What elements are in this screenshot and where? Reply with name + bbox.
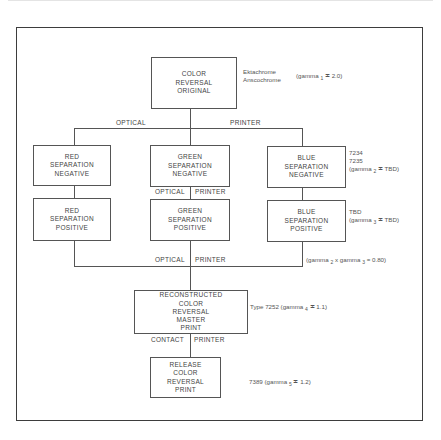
box-text-line: GREEN xyxy=(178,153,203,162)
box-text-line: REVERSAL xyxy=(175,79,212,88)
note-line: Anscochrome xyxy=(243,76,281,84)
gamma-subscript: 3 xyxy=(362,259,365,265)
gamma-subscript: 2 xyxy=(330,259,333,265)
connector-master-to-release xyxy=(190,333,191,357)
gamma-label: x gamma xyxy=(335,256,360,263)
box-green-separation-negative: GREEN SEPARATION NEGATIVE xyxy=(150,145,230,187)
box-text-line: RELEASE xyxy=(169,361,201,370)
box-text-line: PRINT xyxy=(175,386,196,395)
connector-to-red-neg xyxy=(74,128,75,145)
gamma-value: ≐ 1.2) xyxy=(293,378,310,385)
box-text-line: SEPARATION xyxy=(168,162,212,171)
gamma-label: (gamma xyxy=(349,165,372,172)
box-text-line: NEGATIVE xyxy=(173,170,208,179)
box-text-line: SEPARATION xyxy=(50,215,94,224)
note-original-films: Ektachrome Anscochrome xyxy=(243,68,281,84)
gamma-label: 7389 (gamma xyxy=(249,378,287,385)
connector-red-pos-down xyxy=(74,240,75,266)
note-negative-films: 7234 7235 (gamma 2 ≐ TBD) xyxy=(349,149,399,175)
label-printer-2: PRINTER xyxy=(195,188,226,196)
note-line: TBD xyxy=(349,208,399,216)
gamma-label: Type 7252 (gamma xyxy=(250,303,303,310)
box-text-line: MASTER xyxy=(177,316,206,324)
note-release-film: 7389 (gamma 5 ≐ 1.2) xyxy=(249,378,311,388)
gamma-value: ≐ TBD) xyxy=(378,165,399,172)
gamma-subscript: 3 xyxy=(373,219,376,225)
gamma-value: ≐ TBD) xyxy=(378,216,399,223)
box-text-line: RECONSTRUCTED xyxy=(160,291,223,299)
connector-green-pos-to-master xyxy=(190,240,191,290)
box-text-line: POSITIVE xyxy=(56,224,88,233)
gamma-value: ≐ 1.1) xyxy=(310,303,327,310)
connector-blue-pos-down xyxy=(302,241,303,266)
gamma-label: (gamma xyxy=(296,72,319,79)
connector-split-top xyxy=(74,128,303,129)
label-printer-1: PRINTER xyxy=(230,119,261,127)
connector-red-neg-pos xyxy=(74,185,75,198)
box-text-line: ORIGINAL xyxy=(177,87,210,96)
box-text-line: COLOR xyxy=(173,369,198,378)
box-text-line: NEGATIVE xyxy=(55,170,90,179)
box-red-separation-positive: RED SEPARATION POSITIVE xyxy=(33,198,111,241)
note-line: (gamma 3 ≐ TBD) xyxy=(349,216,399,226)
note-line: 7235 xyxy=(349,157,399,165)
note-positive-film: TBD (gamma 3 ≐ TBD) xyxy=(349,208,399,226)
box-text-line: PRINT xyxy=(181,324,202,332)
connector-merge-bottom xyxy=(74,266,303,267)
box-reconstructed-master-print: RECONSTRUCTED COLOR REVERSAL MASTER PRIN… xyxy=(134,290,248,334)
top-rule xyxy=(8,0,433,1)
box-text-line: REVERSAL xyxy=(167,378,204,387)
gamma-value: ≐ 2.0) xyxy=(325,72,342,79)
box-blue-separation-negative: BLUE SEPARATION NEGATIVE xyxy=(267,146,346,188)
box-text-line: BLUE xyxy=(297,154,315,163)
box-green-separation-positive: GREEN SEPARATION POSITIVE xyxy=(150,199,230,241)
gamma-subscript: 2 xyxy=(373,168,376,174)
gamma-subscript: 4 xyxy=(305,306,308,312)
box-text-line: NEGATIVE xyxy=(289,171,324,180)
box-text-line: GREEN xyxy=(178,207,203,216)
box-text-line: REVERSAL xyxy=(172,308,209,316)
box-text-line: BLUE xyxy=(297,208,315,217)
box-text-line: POSITIVE xyxy=(174,224,206,233)
label-optical-2: OPTICAL xyxy=(155,188,185,196)
label-contact: CONTACT xyxy=(151,336,184,344)
box-text-line: SEPARATION xyxy=(50,161,94,170)
box-blue-separation-positive: BLUE SEPARATION POSITIVE xyxy=(267,200,346,242)
label-optical-1: OPTICAL xyxy=(116,119,146,127)
box-text-line: COLOR xyxy=(179,300,204,308)
box-red-separation-negative: RED SEPARATION NEGATIVE xyxy=(33,145,111,186)
box-text-line: SEPARATION xyxy=(285,217,329,226)
gamma-label: (gamma xyxy=(349,216,372,223)
note-line: (gamma 2 ≐ TBD) xyxy=(349,165,399,175)
box-color-reversal-original: COLOR REVERSAL ORIGINAL xyxy=(151,57,237,109)
connector-to-blue-neg xyxy=(302,128,303,146)
box-text-line: RED xyxy=(65,207,80,216)
note-product-gamma: (gamma 2 x gamma 3 = 0.80) xyxy=(306,256,386,266)
note-line: Ektachrome xyxy=(243,68,281,76)
gamma-subscript: 1 xyxy=(320,75,323,81)
box-text-line: POSITIVE xyxy=(290,225,322,234)
connector-blue-neg-pos xyxy=(302,187,303,200)
box-text-line: SEPARATION xyxy=(168,216,212,225)
box-release-color-reversal-print: RELEASE COLOR REVERSAL PRINT xyxy=(150,357,221,398)
gamma-value: = 0.80) xyxy=(367,256,386,263)
gamma-label: (gamma xyxy=(306,256,329,263)
box-text-line: COLOR xyxy=(182,70,207,79)
label-printer-3: PRINTER xyxy=(195,256,226,264)
connector-green-neg-pos xyxy=(190,186,191,199)
label-optical-3: OPTICAL xyxy=(155,256,185,264)
box-text-line: RED xyxy=(65,153,80,162)
box-text-line: SEPARATION xyxy=(285,163,329,172)
note-master-film: Type 7252 (gamma 4 ≐ 1.1) xyxy=(250,303,327,313)
connector-original-down xyxy=(190,108,191,146)
label-printer-4: PRINTER xyxy=(194,336,225,344)
gamma-subscript: 5 xyxy=(289,381,292,387)
note-original-gamma: (gamma 1 ≐ 2.0) xyxy=(296,72,342,82)
note-line: 7234 xyxy=(349,149,399,157)
